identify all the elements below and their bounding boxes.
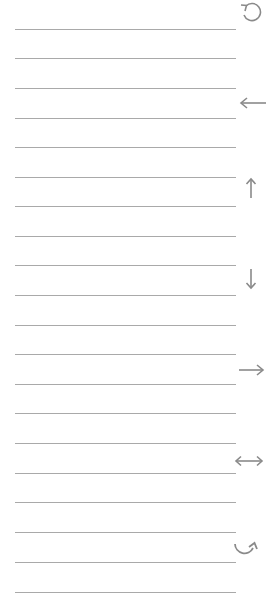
arrow-left-right-icon[interactable] [234, 450, 264, 472]
ruled-line [15, 325, 236, 326]
ruled-line [15, 295, 236, 296]
ruled-line [15, 443, 236, 444]
ruled-line [15, 592, 236, 593]
ruled-line [15, 118, 236, 119]
ruled-line [15, 502, 236, 503]
arrow-left-icon[interactable] [238, 92, 268, 114]
ruled-line [15, 384, 236, 385]
ruled-line [15, 265, 236, 266]
ruled-line [15, 532, 236, 533]
ruled-line [15, 473, 236, 474]
ruled-line [15, 562, 236, 563]
arrow-right-icon[interactable] [236, 359, 266, 381]
ruled-line [15, 147, 236, 148]
ruled-line [15, 88, 236, 89]
arrow-up-icon[interactable] [236, 177, 266, 199]
ruled-line [15, 236, 236, 237]
rotate-clockwise-icon[interactable] [233, 539, 263, 561]
rotate-counterclockwise-icon[interactable] [235, 1, 265, 23]
ruled-line [15, 413, 236, 414]
arrow-down-icon[interactable] [236, 268, 266, 290]
ruled-line [15, 177, 236, 178]
ruled-line [15, 58, 236, 59]
ruled-line [15, 354, 236, 355]
ruled-line [15, 29, 236, 30]
ruled-line [15, 206, 236, 207]
